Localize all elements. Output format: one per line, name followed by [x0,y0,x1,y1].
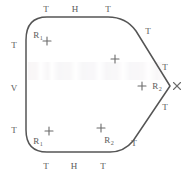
cross-marker-layer [43,37,146,135]
bottom-center-H: H [71,162,78,171]
cross-right-mid [138,82,146,90]
upper-right-T: T [145,27,151,36]
top-left-T: T [43,5,49,14]
right-upper-T: T [162,63,168,72]
cross-upper-mid [111,55,119,63]
top-right-T: T [105,5,111,14]
contour-diagram: THTTTTTTHTTVT R1R1R2R2 [0,0,196,174]
left-center-V: V [11,84,18,93]
contour-outline [26,17,170,152]
radius-right-vertex: R2 [152,82,162,91]
radius-bottom-right: R2 [104,136,114,145]
lower-right-T: T [131,139,137,148]
left-upper-T: T [11,41,17,50]
vertex-x-mark [174,83,181,90]
radius-top-left: R1 [33,31,43,40]
radius-bottom-left: R1 [33,137,43,146]
bottom-right-T: T [100,162,106,171]
diagram-canvas [0,0,196,174]
cross-bottom-mid [97,124,105,132]
cross-bottom-left [45,127,53,135]
left-lower-T: T [11,126,17,135]
right-lower-T: T [162,103,168,112]
bottom-left-T: T [43,162,49,171]
top-center-H: H [72,5,79,14]
cross-top-left [43,37,51,45]
